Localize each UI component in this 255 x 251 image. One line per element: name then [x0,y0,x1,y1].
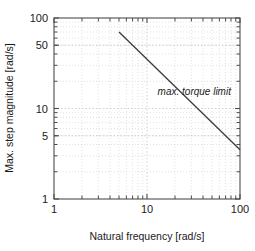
x-tick-label: 10 [141,203,153,215]
max-torque-limit-annotation: max. torque limit [158,86,233,97]
y-axis-title: Max. step magnitude [rad/s] [3,43,15,173]
x-axis-title: Natural frequency [rad/s] [90,230,205,242]
x-tick-label: 100 [231,203,249,215]
chart-figure: 110100 151050100 Natural frequency [rad/… [0,0,255,251]
y-tick-label: 50 [36,39,48,51]
y-tick-label: 1 [42,193,48,205]
x-tick-label: 1 [51,203,57,215]
figure-background [0,0,255,251]
y-tick-label: 5 [42,130,48,142]
y-tick-label: 100 [30,12,48,24]
y-tick-label: 10 [36,103,48,115]
loglog-plot: 110100 151050100 Natural frequency [rad/… [0,0,255,251]
